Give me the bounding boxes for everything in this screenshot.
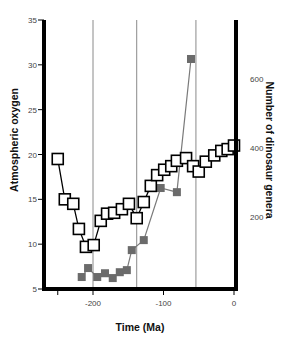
- x-axis-title: Time (Ma): [116, 321, 165, 333]
- data-point-marker: [93, 273, 101, 281]
- y-tick-label-left: 15: [28, 195, 37, 204]
- y-tick-label-left: 20: [28, 151, 37, 160]
- chart: 5101520253035200400600-200-1000 Time (Ma…: [0, 0, 287, 345]
- series-layer: [52, 55, 239, 282]
- data-point-marker: [123, 266, 131, 274]
- data-point-marker: [145, 180, 156, 191]
- data-point-marker: [131, 213, 142, 224]
- data-point-marker: [88, 240, 99, 251]
- data-point-marker: [123, 198, 134, 209]
- y-tick-label-left: 25: [28, 106, 37, 115]
- data-point-marker: [187, 55, 195, 63]
- data-point-marker: [78, 273, 86, 281]
- y-axis-title-left: Atmospheric oxygen: [8, 88, 20, 192]
- data-point-marker: [128, 246, 136, 254]
- data-point-marker: [173, 188, 181, 196]
- y-tick-label-left: 10: [28, 240, 37, 249]
- y-tick-label-left: 35: [28, 16, 37, 25]
- y-axis-title-right: Number of dinosaur genera: [264, 81, 276, 218]
- y-tick-label-right: 200: [250, 213, 264, 222]
- y-tick-label-right: 400: [250, 144, 264, 153]
- data-point-marker: [84, 264, 92, 272]
- y-tick-label-right: 600: [250, 75, 264, 84]
- data-point-marker: [116, 268, 124, 276]
- x-tick-label: -100: [155, 299, 172, 308]
- data-point-marker: [68, 198, 79, 209]
- data-point-marker: [138, 197, 149, 208]
- data-point-marker: [73, 223, 84, 234]
- y-tick-label-left: 5: [33, 285, 38, 294]
- data-point-marker: [109, 274, 117, 282]
- data-point-marker: [101, 269, 109, 277]
- data-point-marker: [52, 153, 63, 164]
- x-tick-label: -200: [85, 299, 102, 308]
- x-tick-label: 0: [232, 299, 237, 308]
- y-tick-label-left: 30: [28, 61, 37, 70]
- data-point-marker: [140, 236, 148, 244]
- data-point-marker: [157, 184, 165, 192]
